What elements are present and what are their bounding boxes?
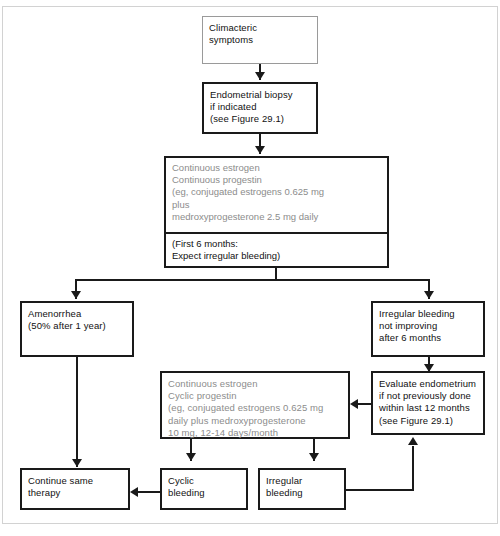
node-evaluate-endometrium: Evaluate endometrium if not previously d… [371, 371, 485, 435]
node-irregular-bleeding: Irregular bleeding [258, 468, 346, 510]
node-climacteric-symptoms: Climacteric symptoms [202, 16, 318, 64]
flowchart-page: Climacteric symptoms Endometrial biopsy … [0, 0, 500, 536]
arrowhead-left-to-cyclic-regimen [350, 399, 358, 409]
connector-cyclicbleeding-to-continue [138, 491, 162, 493]
node-continue-same-therapy: Continue same therapy [20, 468, 130, 510]
arrowhead-down-to-biopsy [255, 72, 265, 80]
connector-evaluate-to-cyclic [358, 403, 373, 405]
node-cyclic-regimen: Continuous estrogen Cyclic progestin (eg… [160, 371, 350, 439]
node-cyclic-bleeding: Cyclic bleeding [160, 468, 248, 510]
arrowhead-down-to-irregular-not-improving [424, 291, 434, 299]
arrowhead-left-to-continue-therapy [130, 487, 138, 497]
arrowhead-down-to-amenorrhea [71, 291, 81, 299]
connector-continuous-split-bar [75, 279, 430, 281]
node-continuous-regimen: Continuous estrogen Continuous progestin… [164, 156, 389, 268]
arrowhead-up-to-evaluate-endometrium [408, 437, 418, 445]
arrowhead-down-to-irregular-bleeding [309, 453, 319, 461]
arrowhead-down-to-continuous [255, 146, 265, 154]
node-continuous-regimen-details: Continuous estrogen Continuous progestin… [166, 158, 387, 234]
connector-irregular-to-evaluate-horizontal [344, 489, 414, 491]
arrowhead-down-to-cyclic-bleeding [186, 453, 196, 461]
node-irregular-bleeding-not-improving: Irregular bleeding not improving after 6… [371, 301, 485, 357]
connector-amenorrhea-to-continue [76, 357, 78, 467]
node-continuous-regimen-expectation: (First 6 months: Expect irregular bleedi… [166, 234, 387, 266]
arrowhead-down-to-continue-therapy [72, 459, 82, 467]
node-amenorrhea: Amenorrhea (50% after 1 year) [20, 301, 134, 357]
node-endometrial-biopsy: Endometrial biopsy if indicated (see Fig… [202, 82, 318, 134]
connector-irregular-to-evaluate-vertical [412, 446, 414, 491]
